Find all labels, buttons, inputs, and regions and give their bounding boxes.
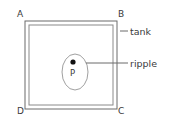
corner-label-b: B: [118, 10, 124, 19]
point-source-label-p: P: [70, 69, 75, 78]
tank-outer-wall: [25, 21, 117, 109]
corner-label-d: D: [17, 107, 24, 116]
point-source-dot-icon: [70, 59, 75, 64]
ripple-tank-diagram: A B C D tank ripple P: [0, 0, 170, 127]
callout-label-tank: tank: [130, 27, 151, 37]
callout-label-ripple: ripple: [130, 59, 157, 69]
corner-label-a: A: [17, 10, 23, 19]
tank-inner-wall: [29, 25, 113, 105]
corner-label-c: C: [118, 107, 124, 116]
